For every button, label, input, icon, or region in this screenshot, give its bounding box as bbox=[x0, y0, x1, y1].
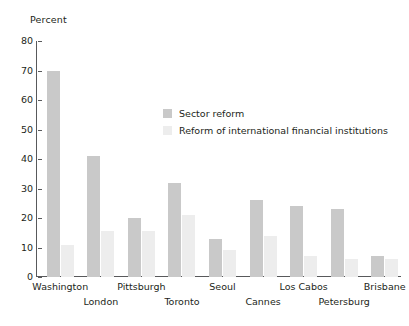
bar bbox=[142, 231, 155, 277]
x-axis-category-label: Washington bbox=[32, 281, 88, 292]
y-axis-tick-label: 60 bbox=[21, 94, 33, 105]
bar bbox=[223, 250, 236, 277]
legend-item-sector-reform: Sector reform bbox=[163, 106, 388, 121]
legend-swatch-icon bbox=[163, 109, 172, 118]
y-axis-tick-label: 80 bbox=[21, 35, 33, 46]
bar bbox=[304, 256, 317, 277]
y-axis-tick-label: 70 bbox=[21, 65, 33, 76]
bar bbox=[371, 256, 384, 277]
x-axis-category-labels: WashingtonLondonPittsburghTorontoSeoulCa… bbox=[36, 278, 401, 322]
y-axis-tick-label: 10 bbox=[21, 242, 33, 253]
plot-area: 80706050403020100 bbox=[36, 41, 401, 277]
bar bbox=[101, 231, 114, 277]
bar bbox=[168, 183, 181, 277]
bar bbox=[61, 245, 74, 277]
x-axis-category-label: Los Cabos bbox=[280, 281, 328, 292]
y-axis-tick-label: 50 bbox=[21, 124, 33, 135]
bar bbox=[47, 71, 60, 278]
y-axis-tick-label: 40 bbox=[21, 153, 33, 164]
bar bbox=[182, 215, 195, 277]
legend-label: Reform of international financial instit… bbox=[179, 125, 388, 136]
y-axis-tick-label: 30 bbox=[21, 183, 33, 194]
chart-legend: Sector reform Reform of international fi… bbox=[163, 106, 388, 140]
x-axis-category-label: London bbox=[83, 296, 118, 307]
bar bbox=[290, 206, 303, 277]
legend-item-reform-of-international-financial-institutions: Reform of international financial instit… bbox=[163, 123, 388, 138]
bar-chart: Percent 80706050403020100 Sector reform … bbox=[0, 0, 409, 326]
x-axis-category-label: Brisbane bbox=[364, 281, 406, 292]
bar bbox=[250, 200, 263, 277]
legend-label: Sector reform bbox=[179, 108, 244, 119]
bars-layer bbox=[36, 41, 401, 277]
legend-swatch-icon bbox=[163, 126, 172, 135]
x-axis-category-label: Seoul bbox=[209, 281, 235, 292]
bar bbox=[128, 218, 141, 277]
x-axis-category-label: Cannes bbox=[245, 296, 280, 307]
bar bbox=[87, 156, 100, 277]
bar bbox=[331, 209, 344, 277]
y-axis-tick-label: 20 bbox=[21, 212, 33, 223]
x-axis-category-label: Toronto bbox=[164, 296, 199, 307]
bar bbox=[264, 236, 277, 277]
x-axis-category-label: Pittsburgh bbox=[117, 281, 165, 292]
y-axis-title: Percent bbox=[30, 14, 67, 25]
x-axis-category-label: Petersburg bbox=[318, 296, 369, 307]
bar bbox=[345, 259, 358, 277]
bar bbox=[209, 239, 222, 277]
bar bbox=[385, 259, 398, 277]
